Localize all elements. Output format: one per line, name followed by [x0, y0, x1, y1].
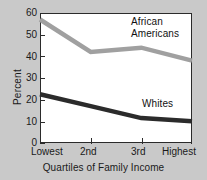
x-tick-mark-2nd: [91, 138, 92, 144]
x-axis-title: Quartiles of Family Income: [0, 162, 207, 173]
x-tick-mark-lowest: [40, 138, 41, 144]
series-label-african-americans: African Americans: [131, 16, 179, 39]
series-label-whites: Whites: [142, 98, 173, 110]
x-tick-mark-3rd: [142, 138, 143, 144]
x-tick-label-lowest: Lowest: [31, 146, 63, 157]
x-tick-label-3rd: 3rd: [131, 146, 145, 157]
x-tick-mark-highest: [191, 138, 192, 144]
x-tick-label-2nd: 2nd: [80, 146, 97, 157]
x-tick-label-highest: Highest: [162, 146, 196, 157]
chart-figure: Percent 60 50 40 30 20 10 0 African Amer…: [0, 0, 207, 180]
